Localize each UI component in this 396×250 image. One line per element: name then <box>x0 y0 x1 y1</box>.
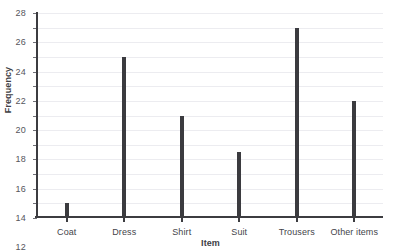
x-axis-tick-label: Suit <box>231 227 247 237</box>
y-axis-tick-label: 14 <box>16 213 26 223</box>
bar-chart: Frequency 0246810121416182022242628 Coat… <box>0 0 396 250</box>
y-axis-tick-label: 12 <box>16 242 26 250</box>
y-axis-tick-label: 18 <box>16 154 26 164</box>
bar <box>237 152 241 218</box>
plot-area: 0246810121416182022242628 CoatDressShirt… <box>38 13 383 218</box>
bar <box>180 116 184 219</box>
bar <box>352 101 356 218</box>
chart-title-cropped <box>0 0 396 3</box>
gridline <box>38 28 383 29</box>
gridline <box>38 159 383 160</box>
x-axis-tick-label: Coat <box>57 227 76 237</box>
gridline <box>38 145 383 146</box>
gridline <box>38 57 383 58</box>
x-axis-tick-label: Other items <box>330 227 378 237</box>
y-axis-spine <box>36 12 38 218</box>
gridline <box>38 86 383 87</box>
y-axis-title: Frequency <box>3 50 15 130</box>
gridline <box>38 203 383 204</box>
gridline <box>38 42 383 43</box>
gridline <box>38 101 383 102</box>
bar <box>295 28 299 218</box>
x-axis-tick-label: Shirt <box>172 227 191 237</box>
y-axis-tick-label: 20 <box>16 125 26 135</box>
y-axis-tick-label: 24 <box>16 67 26 77</box>
gridline <box>38 13 383 14</box>
gridline <box>38 174 383 175</box>
y-axis-tick-label: 28 <box>16 8 26 18</box>
y-axis-tick: 0 <box>33 218 37 219</box>
x-axis-title: Item <box>38 238 383 248</box>
bar <box>122 57 126 218</box>
x-axis-spine <box>35 216 383 218</box>
gridline <box>38 130 383 131</box>
x-axis-tick-label: Trousers <box>279 227 315 237</box>
y-axis-tick-label: 16 <box>16 184 26 194</box>
y-axis-tick-label: 22 <box>16 96 26 106</box>
x-axis-tick-label: Dress <box>112 227 136 237</box>
y-axis-tick-label: 26 <box>16 37 26 47</box>
gridline <box>38 116 383 117</box>
gridline <box>38 189 383 190</box>
gridline <box>38 72 383 73</box>
